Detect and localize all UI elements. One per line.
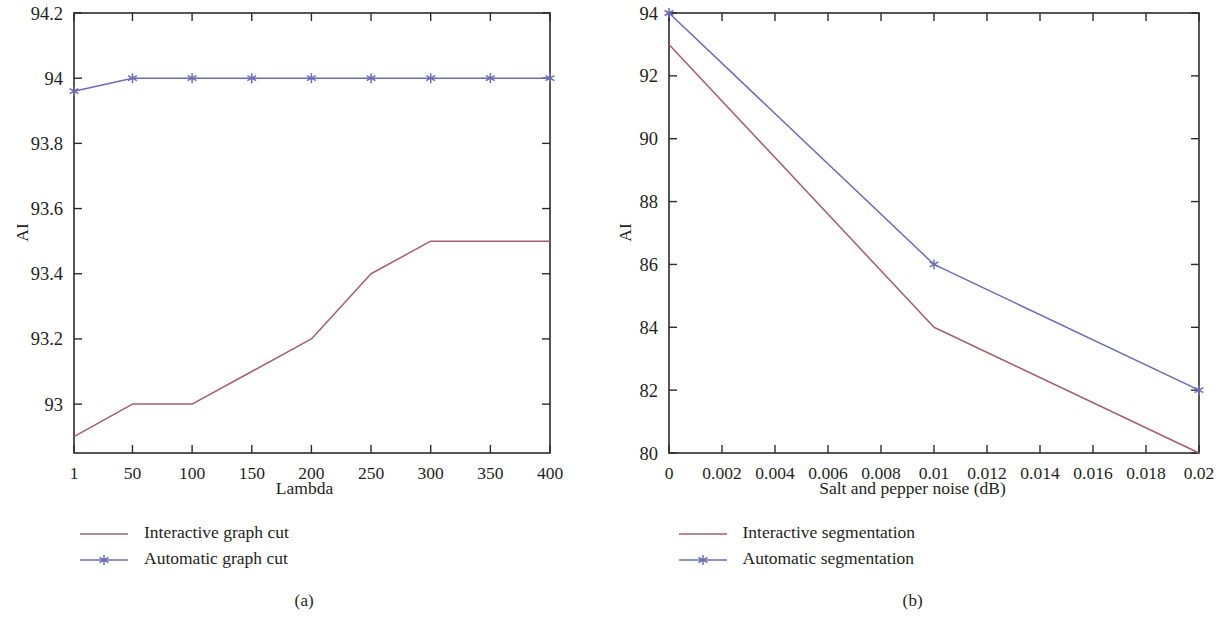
chart-b: 00.0020.0040.0060.0080.010.0120.0140.016… — [609, 0, 1217, 500]
legend-line-swatch — [78, 524, 130, 542]
legend-item-automatic-graph-cut: Automatic graph cut — [78, 546, 289, 572]
y-axis-title-b: AI — [614, 203, 635, 263]
y-tick-label: 86 — [639, 255, 658, 275]
y-tick-label: 90 — [639, 129, 658, 149]
y-tick-label: 94 — [639, 4, 658, 24]
y-axis-title-a: AI — [12, 203, 33, 263]
y-tick-label: 93.2 — [31, 329, 63, 349]
legend-line-swatch — [677, 524, 729, 542]
legend-star-swatch — [78, 550, 130, 568]
legend-label-interactive: Interactive graph cut — [144, 519, 289, 545]
legend-b: Interactive segmentation Automatic segme… — [677, 520, 916, 572]
plot-frame-b — [669, 13, 1199, 453]
chart-a: 150100150200250300350400 9393.293.493.69… — [0, 0, 609, 500]
legend-item-interactive-graph-cut: Interactive graph cut — [78, 520, 289, 546]
legend-label-automatic: Automatic graph cut — [144, 545, 288, 571]
data-series-a — [70, 73, 555, 437]
y-tick-label: 93.4 — [31, 264, 63, 284]
series-line — [669, 44, 1199, 453]
figure-container: 150100150200250300350400 9393.293.493.69… — [0, 0, 1217, 617]
legend-a: Interactive graph cut Automatic graph cu… — [78, 520, 289, 572]
y-tick-labels-b: 8082848688909294 — [639, 4, 658, 464]
series-line — [669, 13, 1199, 390]
x-axis-title-b: Salt and pepper noise (dB) — [609, 478, 1217, 499]
y-tick-label: 94.2 — [31, 4, 63, 24]
legend-label-automatic: Automatic segmentation — [743, 545, 915, 571]
y-tick-label: 92 — [639, 66, 658, 86]
caption-a: (a) — [0, 591, 609, 611]
legend-item-interactive-segmentation: Interactive segmentation — [677, 520, 916, 546]
legend-label-interactive: Interactive segmentation — [743, 519, 916, 545]
legend-star-swatch — [677, 550, 729, 568]
x-axis-title-a: Lambda — [0, 478, 609, 499]
y-tick-labels-a: 9393.293.493.693.89494.2 — [31, 4, 63, 415]
y-tick-label: 93.8 — [31, 134, 63, 154]
y-tick-label: 82 — [639, 381, 658, 401]
legend-item-automatic-segmentation: Automatic segmentation — [677, 546, 916, 572]
y-tick-label: 93.6 — [31, 199, 63, 219]
panel-b: 00.0020.0040.0060.0080.010.0120.0140.016… — [609, 0, 1217, 617]
y-tick-label: 80 — [639, 444, 658, 464]
series-line — [74, 241, 550, 437]
panel-a: 150100150200250300350400 9393.293.493.69… — [0, 0, 609, 617]
caption-b: (b) — [609, 591, 1217, 611]
y-tick-label: 88 — [639, 192, 658, 212]
data-series-b — [664, 8, 1203, 453]
y-tick-label: 94 — [45, 69, 64, 89]
y-tick-label: 84 — [639, 318, 658, 338]
axis-ticks-b — [669, 13, 1199, 453]
y-tick-label: 93 — [45, 395, 64, 415]
